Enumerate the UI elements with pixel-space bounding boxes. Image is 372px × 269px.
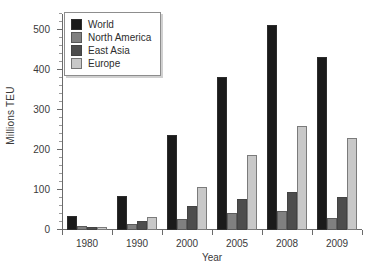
bar [127, 224, 137, 230]
y-tick-label: 500 [33, 24, 50, 35]
x-tick-label: 2009 [326, 238, 348, 249]
y-tick-minor [59, 93, 62, 94]
bar [197, 187, 207, 230]
legend-label: North America [88, 32, 151, 43]
bar [327, 218, 337, 230]
bar [117, 196, 127, 230]
bar [237, 199, 247, 230]
chart-legend: WorldNorth AmericaEast AsiaEurope [64, 12, 161, 76]
bar [317, 57, 327, 230]
x-axis-title: Year [62, 252, 362, 263]
legend-swatch-icon [71, 19, 82, 30]
bar [167, 135, 177, 230]
y-tick-minor [59, 77, 62, 78]
y-tick-minor [59, 85, 62, 86]
bar [177, 219, 187, 230]
bar [67, 216, 77, 230]
y-tick-minor [59, 37, 62, 38]
x-tick-label: 1980 [76, 238, 98, 249]
y-tick-label: 100 [33, 184, 50, 195]
legend-swatch-icon [71, 58, 82, 69]
legend-swatch-icon [71, 32, 82, 43]
bar [347, 138, 357, 230]
bar [147, 217, 157, 230]
bar [77, 226, 87, 230]
legend-item: North America [71, 31, 151, 44]
y-tick-minor [59, 181, 62, 182]
y-tick-minor [59, 45, 62, 46]
y-tick-minor [59, 197, 62, 198]
x-tick [262, 230, 263, 235]
y-axis-title-text: Millions TEU [5, 86, 16, 144]
y-tick-label: 300 [33, 104, 50, 115]
x-tick [62, 230, 63, 235]
y-tick: 400 [57, 69, 62, 70]
y-tick-minor [59, 157, 62, 158]
y-axis-line [62, 14, 63, 230]
y-tick-minor [59, 101, 62, 102]
x-tick [212, 230, 213, 235]
x-tick [312, 230, 313, 235]
y-tick-minor [59, 173, 62, 174]
legend-label: East Asia [88, 45, 130, 56]
legend-label: World [88, 19, 114, 30]
y-tick-minor [59, 133, 62, 134]
y-tick-minor [59, 21, 62, 22]
y-tick: 200 [57, 149, 62, 150]
x-tick [112, 230, 113, 235]
y-tick-minor [59, 221, 62, 222]
y-tick-minor [59, 117, 62, 118]
bar [267, 25, 277, 230]
x-tick [162, 230, 163, 235]
bar [187, 206, 197, 230]
bar [297, 126, 307, 230]
legend-swatch-icon [71, 45, 82, 56]
legend-item: World [71, 18, 151, 31]
y-tick: 300 [57, 109, 62, 110]
y-tick-minor [59, 125, 62, 126]
bar [97, 227, 107, 230]
x-tick-label: 1990 [126, 238, 148, 249]
bar [277, 211, 287, 230]
y-tick-minor [59, 61, 62, 62]
bar-chart: Millions TEU 0100200300400500 1980199020… [0, 0, 372, 269]
y-tick-label: 400 [33, 64, 50, 75]
bar [137, 221, 147, 230]
legend-label: Europe [88, 58, 120, 69]
bar [247, 155, 257, 230]
legend-item: East Asia [71, 44, 151, 57]
y-axis-title: Millions TEU [2, 0, 18, 230]
x-tick [362, 230, 363, 235]
y-tick-minor [59, 213, 62, 214]
y-tick-label: 0 [44, 224, 50, 235]
legend-item: Europe [71, 57, 151, 70]
y-tick-minor [59, 53, 62, 54]
bar [337, 197, 347, 230]
x-tick-label: 2008 [276, 238, 298, 249]
bar [87, 227, 97, 230]
y-tick-minor [59, 205, 62, 206]
bar [227, 213, 237, 230]
y-tick-minor [59, 13, 62, 14]
y-tick: 500 [57, 29, 62, 30]
bar [217, 77, 227, 230]
y-tick-minor [59, 141, 62, 142]
y-tick-label: 200 [33, 144, 50, 155]
x-tick-label: 2005 [226, 238, 248, 249]
x-tick-label: 2000 [176, 238, 198, 249]
y-tick-minor [59, 165, 62, 166]
y-tick: 100 [57, 189, 62, 190]
bar [287, 192, 297, 230]
